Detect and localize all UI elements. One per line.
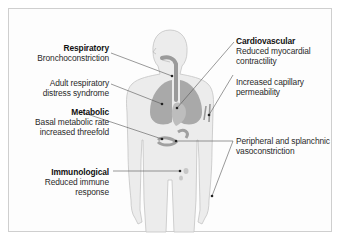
label-line: response — [45, 187, 109, 197]
label-heading: Metabolic — [35, 107, 109, 117]
label-ards: Adult respiratory distress syndrome — [43, 78, 109, 98]
label-heading: Cardiovascular — [236, 36, 311, 46]
label-peripheral: Peripheral and splanchnic vasoconstricti… — [236, 136, 330, 156]
label-line: vasoconstriction — [236, 146, 330, 156]
label-line: contractility — [236, 56, 311, 66]
label-line: Adult respiratory — [43, 78, 109, 88]
label-line: Reduced myocardial — [236, 46, 311, 56]
label-line: increased threefold — [35, 127, 109, 137]
label-metabolic: Metabolic Basal metabolic rate increased… — [35, 107, 109, 137]
label-line: Reduced immune — [45, 177, 109, 187]
label-line: Bronchoconstriction — [37, 53, 109, 63]
label-line: distress syndrome — [43, 88, 109, 98]
body-silhouette — [127, 30, 214, 232]
label-respiratory: Respiratory Bronchoconstriction — [37, 43, 109, 63]
label-line: Peripheral and splanchnic — [236, 136, 330, 146]
label-capillary: Increased capillary permeability — [236, 77, 304, 97]
label-cardiovascular: Cardiovascular Reduced myocardial contra… — [236, 36, 311, 66]
label-heading: Respiratory — [37, 43, 109, 53]
label-immunological: Immunological Reduced immune response — [45, 167, 109, 197]
label-line: permeability — [236, 87, 304, 97]
label-line: Increased capillary — [236, 77, 304, 87]
label-heading: Immunological — [45, 167, 109, 177]
label-line: Basal metabolic rate — [35, 117, 109, 127]
